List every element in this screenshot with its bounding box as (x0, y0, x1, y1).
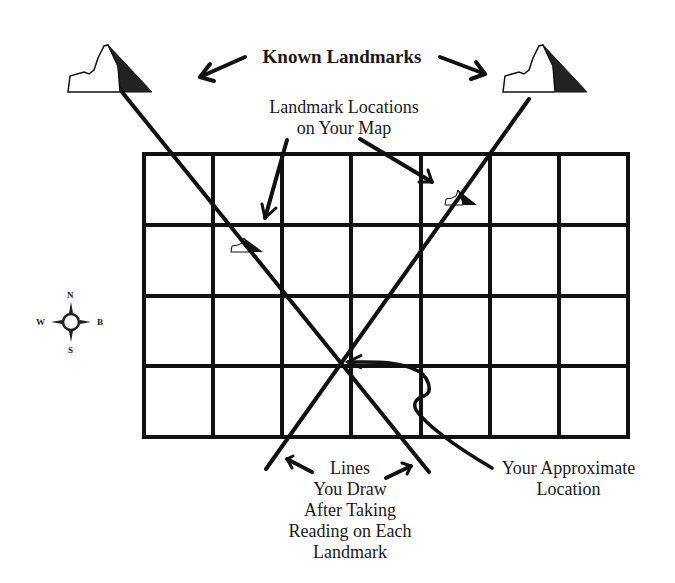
lines-you-draw-line2: You Draw (285, 479, 415, 500)
landmark-locations-line2: on Your Map (244, 118, 444, 139)
compass-south-label: S (68, 345, 73, 355)
compass-north-label: N (67, 290, 74, 300)
bearing-line-left-landmark (122, 92, 429, 472)
lines-you-draw-line5: Landmark (285, 542, 415, 563)
compass-rose-icon (51, 302, 91, 342)
landmark-locations-line1: Landmark Locations (244, 97, 444, 118)
map-grid (144, 154, 628, 437)
lines-you-draw-line4: Reading on Each (275, 521, 425, 542)
lines-you-draw-line3: After Taking (285, 500, 415, 521)
compass-east-label: B (97, 317, 103, 327)
bearing-lines (122, 92, 529, 472)
compass-west-label: W (36, 317, 45, 327)
approximate-location-line2: Location (486, 479, 651, 500)
right-landmark-mountain-icon (503, 45, 587, 92)
approximate-location-line1: Your Approximate (486, 458, 651, 479)
known-landmarks-title: Known Landmarks (247, 46, 437, 68)
left-landmark-mountain-icon (68, 45, 152, 92)
lines-you-draw-line1: Lines (285, 458, 415, 479)
